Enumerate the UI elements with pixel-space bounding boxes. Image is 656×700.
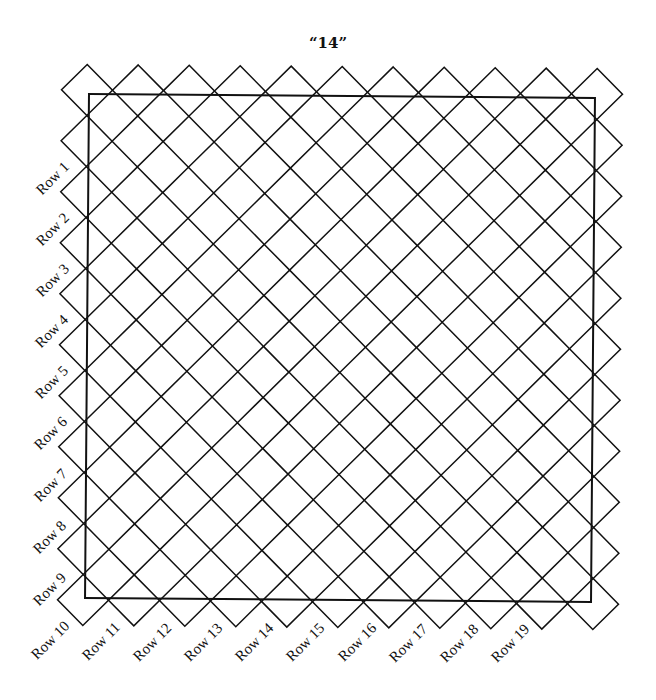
diamond-cell xyxy=(364,475,415,526)
diamond-cell xyxy=(518,425,569,476)
diamond-cell xyxy=(261,576,312,627)
diamond-cell xyxy=(212,422,263,473)
diamond-cell xyxy=(417,271,468,322)
diagram-canvas: “14” Row 1Row 2Row 3Row 4Row 5Row 6Row 7… xyxy=(0,0,656,700)
diamond-cell xyxy=(571,68,622,119)
diamond-cell xyxy=(210,575,261,626)
diamond-cell xyxy=(416,373,467,424)
diamond-cell xyxy=(569,374,620,425)
diamond-cell xyxy=(466,475,517,526)
diamond-cell xyxy=(110,371,161,422)
diamond-cell xyxy=(265,168,316,219)
diamond-cell xyxy=(161,320,212,371)
diamond-cell xyxy=(466,526,517,577)
diamond-cell xyxy=(214,168,265,219)
diamond-cell xyxy=(109,524,160,575)
diamond-cell xyxy=(315,270,366,321)
diamond-cell xyxy=(111,269,162,320)
diamond-cell xyxy=(367,118,418,169)
diamond-cell xyxy=(159,575,210,626)
diamond-cell xyxy=(314,423,365,474)
diamond-cell xyxy=(467,374,518,425)
diamond-cell xyxy=(414,577,465,628)
diamond-lattice xyxy=(0,0,656,700)
diamond-cell xyxy=(518,323,569,374)
diamond-cell xyxy=(366,220,417,271)
diamond-cell xyxy=(161,371,212,422)
diamond-cell xyxy=(163,65,214,116)
diamond-cell xyxy=(212,320,263,371)
diamond-cell xyxy=(519,221,570,272)
diamond-cell xyxy=(520,170,571,221)
diamond-cell xyxy=(262,525,313,576)
diamond-cell xyxy=(212,371,263,422)
diamond-cell xyxy=(161,422,212,473)
diamond-cell xyxy=(314,321,365,372)
diamond-cell xyxy=(418,118,469,169)
diamond-cell xyxy=(264,219,315,270)
diamond-cell xyxy=(367,169,418,220)
diamond-cell xyxy=(569,323,620,374)
diamond-cell xyxy=(214,66,265,117)
diamond-cell xyxy=(160,524,211,575)
diamond-cell xyxy=(314,372,365,423)
diamond-cell xyxy=(469,170,520,221)
diamond-cell xyxy=(570,221,621,272)
diamond-cell xyxy=(263,321,314,372)
diamond-cell xyxy=(110,320,161,371)
diamond-cell xyxy=(571,119,622,170)
diamond-cell xyxy=(416,424,467,475)
diamond-cell xyxy=(568,527,619,578)
diamond-cell xyxy=(418,169,469,220)
diamond-cell xyxy=(417,220,468,271)
diamond-cell xyxy=(162,218,213,269)
diamond-cell xyxy=(520,68,571,119)
diamond-cell xyxy=(469,119,520,170)
diamond-cell xyxy=(365,373,416,424)
diamond-cell xyxy=(316,168,367,219)
diamond-cell xyxy=(465,577,516,628)
diamond-cell xyxy=(363,577,414,628)
diamond-cell xyxy=(313,474,364,525)
diamond-cell xyxy=(109,473,160,524)
diamond-cell xyxy=(211,524,262,575)
diamond-cell xyxy=(516,578,567,629)
diamond-cell xyxy=(313,525,364,576)
diamond-cell xyxy=(467,323,518,374)
diamond-cell xyxy=(112,65,163,116)
diamond-cell xyxy=(468,272,519,323)
diamond-cell xyxy=(416,322,467,373)
diamond-cell xyxy=(519,272,570,323)
diamond-cell xyxy=(570,272,621,323)
diamond-cell xyxy=(365,322,416,373)
diamond-cell xyxy=(265,66,316,117)
diamond-cell xyxy=(163,116,214,167)
lattice-group xyxy=(57,64,622,629)
diamond-cell xyxy=(364,526,415,577)
diamond-cell xyxy=(211,473,262,524)
diamond-cell xyxy=(568,476,619,527)
diamond-cell xyxy=(110,422,161,473)
diamond-cell xyxy=(571,170,622,221)
diamond-cell xyxy=(263,372,314,423)
diamond-cell xyxy=(61,64,112,115)
diamond-cell xyxy=(312,576,363,627)
diamond-cell xyxy=(568,425,619,476)
diamond-cell xyxy=(265,117,316,168)
diamond-cell xyxy=(316,66,367,117)
diamond-cell xyxy=(365,424,416,475)
diamond-cell xyxy=(108,575,159,626)
diamond-cell xyxy=(264,270,315,321)
diamond-cell xyxy=(213,219,264,270)
diamond-cell xyxy=(160,473,211,524)
diamond-cell xyxy=(469,68,520,119)
diamond-cell xyxy=(520,119,571,170)
diamond-cell xyxy=(415,526,466,577)
diamond-cell xyxy=(112,167,163,218)
diamond-cell xyxy=(163,167,214,218)
diamond-cell xyxy=(214,117,265,168)
diamond-cell xyxy=(468,221,519,272)
diamond-cell xyxy=(213,270,264,321)
diamond-cell xyxy=(112,116,163,167)
diamond-cell xyxy=(467,424,518,475)
